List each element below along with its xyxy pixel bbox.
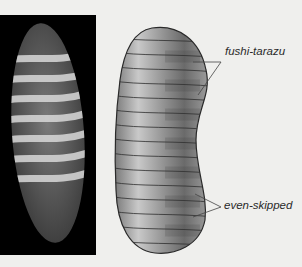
fushi-tarazu-label: fushi-tarazu <box>225 45 285 57</box>
schematic-stripe-shade <box>165 109 200 121</box>
schematic-stripe-shade <box>165 167 200 179</box>
schematic-stripe-shade <box>165 80 200 92</box>
micrograph-panel <box>0 15 96 255</box>
schematic-stripe-shade <box>165 225 200 237</box>
schematic-stripe-shade <box>165 196 200 208</box>
schematic-stripe-shade <box>165 138 200 150</box>
embryo-figure <box>0 0 302 267</box>
even-skipped-label: even-skipped <box>224 199 292 211</box>
schematic-stripe-shade <box>165 51 200 63</box>
schematic-panel <box>110 27 215 253</box>
